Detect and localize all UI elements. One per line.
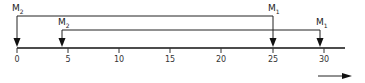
tick-label: 30	[319, 56, 329, 64]
marker-label-m2-outer: M2	[12, 4, 24, 15]
marker-label-m1-inner: M1	[316, 18, 328, 29]
tick-label: 10	[114, 56, 124, 64]
right-arrow-icon	[318, 73, 352, 79]
tick-label: 15	[165, 56, 175, 64]
bracket-inner	[62, 30, 320, 42]
tick-label: 25	[268, 56, 278, 64]
marker-label-m1-outer: M1	[268, 4, 280, 15]
tick-label: 5	[65, 56, 70, 64]
marker-label-m2-inner: M2	[58, 18, 70, 29]
bracket-outer	[17, 16, 273, 42]
tick-label: 0	[14, 56, 19, 64]
down-arrow-icons	[14, 38, 324, 47]
timeline-diagram	[0, 0, 365, 83]
tick-label: 20	[216, 56, 226, 64]
